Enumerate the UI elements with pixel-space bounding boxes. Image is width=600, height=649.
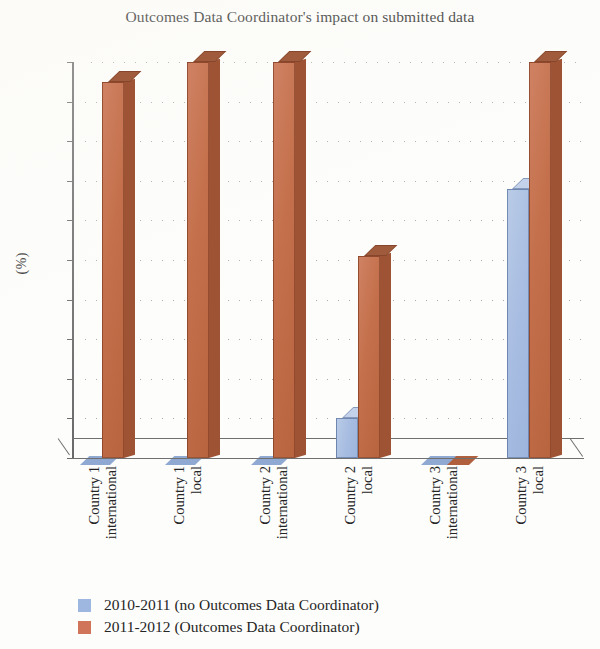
bar-top-face — [278, 51, 311, 62]
plot-area: 1009080706050403020100 — [72, 62, 584, 458]
category-label-line1: Country 3 — [427, 466, 444, 584]
category-label-line2: local — [359, 466, 376, 584]
bar — [336, 418, 358, 458]
gridline — [80, 102, 584, 103]
bar-side-face — [295, 59, 306, 458]
bar-side-face — [124, 78, 135, 458]
bar-front-face — [273, 62, 295, 458]
y-axis-tick — [67, 102, 73, 103]
bar — [507, 189, 529, 458]
bar-front-face — [529, 62, 551, 458]
category-label-line2: local — [188, 466, 205, 584]
category-label-line1: Country 1 — [171, 466, 188, 584]
y-axis-tick — [67, 379, 73, 380]
x-axis-category-label: Country 3local — [513, 466, 546, 584]
bar-front-face — [336, 418, 358, 458]
y-axis-tick — [67, 141, 73, 142]
chart-legend: 2010-2011 (no Outcomes Data Coordinator)… — [78, 596, 379, 640]
gridline — [86, 62, 584, 63]
category-label-line1: Country 1 — [86, 466, 103, 584]
bar-side-face — [380, 253, 391, 458]
bar-front-face — [507, 189, 529, 458]
bar-front-face — [187, 62, 209, 458]
y-axis-title: (%) — [14, 252, 30, 275]
category-label-line2: international — [273, 466, 290, 584]
category-label-line1: Country 2 — [257, 466, 274, 584]
x-axis-category-label: Country 2local — [342, 466, 375, 584]
gridline — [80, 141, 584, 142]
y-axis-tick — [67, 339, 73, 340]
legend-color-swatch — [78, 599, 91, 612]
bar-top-face — [193, 51, 226, 62]
y-axis-tick — [67, 220, 73, 221]
bar-front-face — [358, 256, 380, 458]
bar — [187, 62, 209, 458]
bar-front-face — [102, 82, 124, 458]
category-label-line1: Country 2 — [342, 466, 359, 584]
floor-front-edge — [72, 458, 584, 459]
y-axis-tick — [67, 260, 73, 261]
bar — [102, 82, 124, 458]
bar — [529, 62, 551, 458]
y-axis-tick — [67, 181, 73, 182]
category-label-line1: Country 3 — [513, 466, 530, 584]
x-axis-category-label: Country 3international — [427, 466, 460, 584]
chart-title: Outcomes Data Coordinator's impact on su… — [0, 8, 600, 26]
legend-color-swatch — [78, 621, 91, 634]
y-axis-tick — [67, 62, 73, 63]
bar — [273, 62, 295, 458]
legend-label: 2011-2012 (Outcomes Data Coordinator) — [104, 618, 360, 636]
bar-top-face — [364, 245, 397, 256]
category-label-line2: international — [103, 466, 120, 584]
gridline — [80, 181, 584, 182]
bar-side-face — [551, 59, 562, 458]
legend-item: 2010-2011 (no Outcomes Data Coordinator) — [78, 596, 379, 614]
x-axis-category-label: Country 1international — [86, 466, 119, 584]
floor-left-edge — [58, 438, 70, 455]
category-label-line2: international — [444, 466, 461, 584]
y-axis-tick — [67, 300, 73, 301]
bar-top-face — [534, 51, 567, 62]
legend-label: 2010-2011 (no Outcomes Data Coordinator) — [104, 596, 379, 614]
x-axis-category-label: Country 1local — [171, 466, 204, 584]
bar — [358, 256, 380, 458]
category-label-line2: local — [529, 466, 546, 584]
bar-side-face — [209, 59, 220, 458]
y-axis-tick — [67, 418, 73, 419]
bar-top-face — [108, 71, 141, 82]
x-axis-category-label: Country 2international — [257, 466, 290, 584]
legend-item: 2011-2012 (Outcomes Data Coordinator) — [78, 618, 379, 636]
